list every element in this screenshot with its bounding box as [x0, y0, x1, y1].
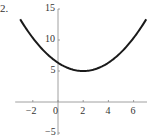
- axes: [15, 9, 147, 135]
- y-tick-label: 5: [51, 65, 56, 75]
- parabola-chart: [0, 0, 147, 138]
- x-tick-label: 6: [131, 106, 136, 116]
- y-tick-label: 15: [45, 3, 55, 13]
- y-tick-label: −5: [45, 127, 56, 137]
- y-tick-label: 10: [45, 34, 55, 44]
- x-tick-label: 0: [53, 106, 58, 116]
- x-tick-label: −2: [26, 106, 37, 116]
- x-tick-label: 4: [105, 106, 110, 116]
- x-tick-label: 2: [80, 106, 85, 116]
- curve-line: [20, 19, 146, 71]
